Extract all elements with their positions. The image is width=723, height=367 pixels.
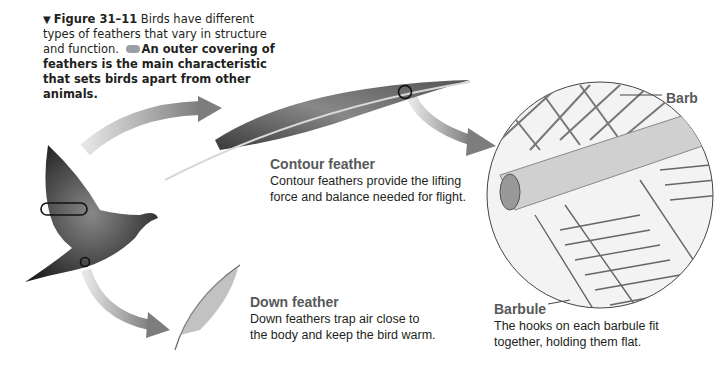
- contour-line1: Contour feathers provide the lifting: [270, 173, 466, 189]
- arrow-to-down-feather: [86, 270, 170, 338]
- barbule-line2: together, holding them flat.: [494, 334, 659, 350]
- barbule-line1: The hooks on each barbule fit: [494, 318, 659, 334]
- contour-line2: force and balance needed for flight.: [270, 189, 466, 205]
- pigeon-drawing: [25, 145, 158, 282]
- barbule-title: Barbule: [494, 301, 659, 318]
- down-line2: the body and keep the bird warm.: [250, 327, 436, 343]
- down-title: Down feather: [250, 294, 436, 311]
- barb-label: Barb: [666, 90, 698, 106]
- arrow-to-contour-feather: [85, 96, 222, 150]
- barbule-magnified-view: [487, 82, 720, 320]
- down-feather-drawing: [175, 265, 240, 350]
- down-line1: Down feathers trap air close to: [250, 311, 436, 327]
- barbule-label: Barbule The hooks on each barbule fit to…: [494, 301, 659, 350]
- arrow-to-barbule-detail: [412, 98, 496, 156]
- contour-title: Contour feather: [270, 156, 466, 173]
- down-feather-label: Down feather Down feathers trap air clos…: [250, 294, 436, 343]
- contour-feather-label: Contour feather Contour feathers provide…: [270, 156, 466, 205]
